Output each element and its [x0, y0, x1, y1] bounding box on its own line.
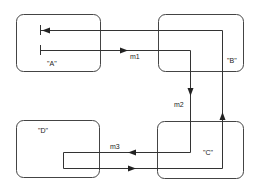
node-label-c: "C"	[203, 149, 213, 156]
arrow-right-m1-icon	[120, 48, 128, 54]
node-box-c[interactable]	[158, 122, 244, 179]
return-path-line[interactable]	[41, 31, 223, 169]
node-box-a[interactable]	[17, 15, 101, 72]
node-label-b: "B"	[227, 57, 237, 64]
message-path-line[interactable]	[41, 51, 223, 169]
arrow-down-m2-icon	[188, 88, 194, 96]
node-label-d: "D"	[38, 127, 48, 134]
message-label-m3: m3	[110, 143, 120, 150]
node-label-a: "A"	[47, 60, 57, 67]
arrow-right-m3-icon	[128, 166, 136, 172]
message-label-m2: m2	[174, 101, 184, 108]
arrow-left-top-icon	[42, 28, 50, 34]
message-label-m1: m1	[130, 53, 140, 60]
arrow-left-m2-icon	[128, 150, 136, 156]
arrow-up-return-icon	[220, 112, 226, 120]
diagram-canvas	[0, 0, 254, 188]
